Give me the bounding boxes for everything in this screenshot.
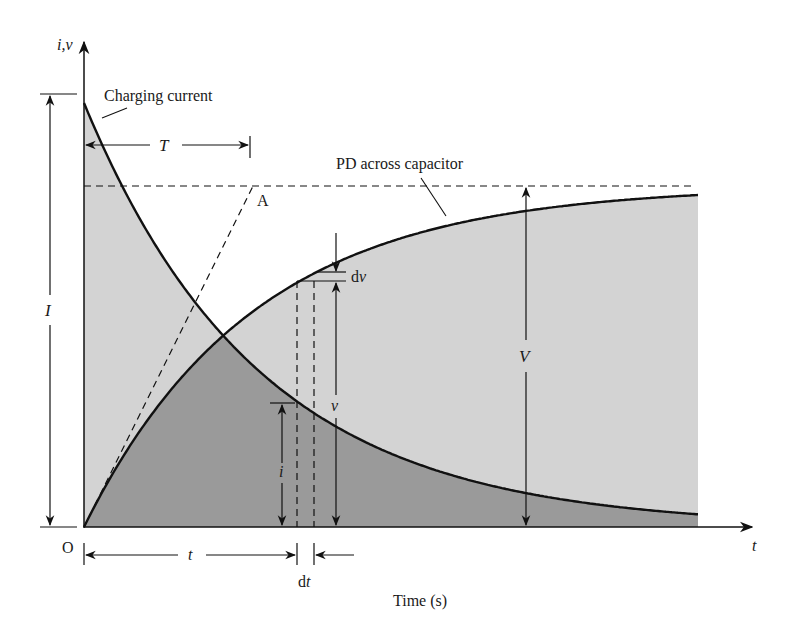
t-dim-label: t — [188, 546, 193, 563]
dt-label: dt — [298, 573, 311, 590]
x-axis-title: Time (s) — [393, 592, 447, 610]
point-a-label: A — [257, 192, 269, 209]
i-label: i — [279, 463, 283, 480]
y-axis-label: i,v — [57, 36, 73, 53]
i-max-label: I — [44, 301, 52, 320]
capacitor-charging-diagram: i,v Charging current T A PD across capac… — [0, 0, 791, 644]
charging-current-label: Charging current — [104, 87, 213, 105]
origin-label: O — [62, 539, 74, 556]
v-label: v — [331, 397, 339, 414]
charging-current-leader — [102, 108, 127, 118]
pd-capacitor-label: PD across capacitor — [336, 155, 464, 173]
dv-label: dv — [351, 268, 367, 285]
x-axis-label: t — [752, 537, 757, 554]
t-constant-label: T — [159, 136, 170, 155]
pd-leader — [421, 178, 446, 216]
